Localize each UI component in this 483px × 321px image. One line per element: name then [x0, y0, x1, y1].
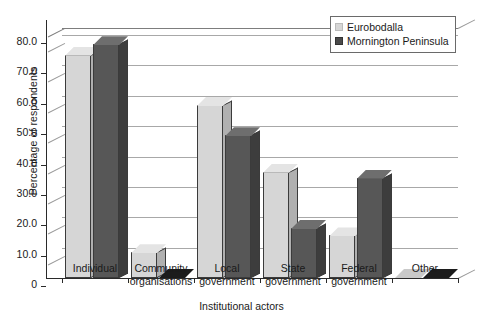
y-axis-tick: 80.0 [41, 43, 46, 44]
y-tick-label: 30.0 [17, 187, 37, 199]
legend-swatch-light [335, 23, 343, 31]
y-axis-tick: 10.0 [41, 256, 46, 257]
y-tick-mark [41, 104, 46, 105]
y-tick-label: 60.0 [17, 96, 37, 108]
plot-top-right-edge [458, 19, 475, 29]
y-tick-mark [41, 256, 46, 257]
bar-side-face [119, 40, 128, 278]
bar-front-face [65, 55, 91, 278]
gridline-riser [48, 73, 65, 82]
gridline-riser [48, 165, 65, 174]
bar [197, 105, 223, 278]
plot-area: 80.070.060.050.040.030.020.010.00 [62, 28, 458, 271]
y-tick-label: 0 [31, 278, 37, 290]
gridline-riser [48, 43, 65, 52]
y-axis-tick: 50.0 [41, 134, 46, 135]
y-axis-tick: 20.0 [41, 225, 46, 226]
y-tick-label: 20.0 [17, 217, 37, 229]
y-axis-tick: 70.0 [41, 73, 46, 74]
bar-front-face [225, 135, 251, 278]
y-tick-label: 10.0 [17, 248, 37, 260]
gridline-riser [48, 104, 65, 113]
y-tick-mark [41, 43, 46, 44]
gridline-riser [48, 134, 65, 143]
bar [225, 135, 251, 278]
gridline-riser [48, 225, 65, 234]
legend-item: Eurobodalla [335, 20, 449, 34]
x-axis-tick [62, 278, 63, 283]
x-axis-tick [458, 278, 459, 283]
bar-front-face [197, 105, 223, 278]
plot-top-left-riser [48, 28, 65, 37]
x-axis-title: Institutional actors [0, 300, 483, 312]
bar-side-face [251, 131, 260, 278]
y-tick-label: 50.0 [17, 126, 37, 138]
bar-chart: Percentage of respondents 80.070.060.050… [0, 0, 483, 321]
y-axis-tick: 60.0 [41, 104, 46, 105]
y-axis-tick: 0 [41, 286, 46, 287]
y-axis-tick: 40.0 [41, 165, 46, 166]
y-tick-mark [41, 195, 46, 196]
y-tick-label: 80.0 [17, 35, 37, 47]
x-axis-category-label: Other [370, 262, 480, 275]
bar [65, 55, 91, 278]
legend-label: Mornington Peninsula [347, 34, 449, 48]
y-tick-mark [41, 73, 46, 74]
y-tick-mark [41, 165, 46, 166]
y-axis-line [46, 20, 47, 279]
y-axis-tick: 30.0 [41, 195, 46, 196]
y-tick-label: 40.0 [17, 157, 37, 169]
y-tick-mark [41, 134, 46, 135]
legend-item: Mornington Peninsula [335, 34, 449, 48]
bar [93, 44, 119, 278]
y-tick-mark [41, 286, 46, 287]
chart-legend: Eurobodalla Mornington Peninsula [330, 16, 456, 53]
legend-swatch-dark [335, 37, 343, 45]
y-tick-mark [41, 225, 46, 226]
y-tick-label: 70.0 [17, 65, 37, 77]
bar [423, 277, 449, 278]
legend-label: Eurobodalla [347, 20, 403, 34]
gridline-riser [48, 195, 65, 204]
bar-front-face [93, 44, 119, 278]
